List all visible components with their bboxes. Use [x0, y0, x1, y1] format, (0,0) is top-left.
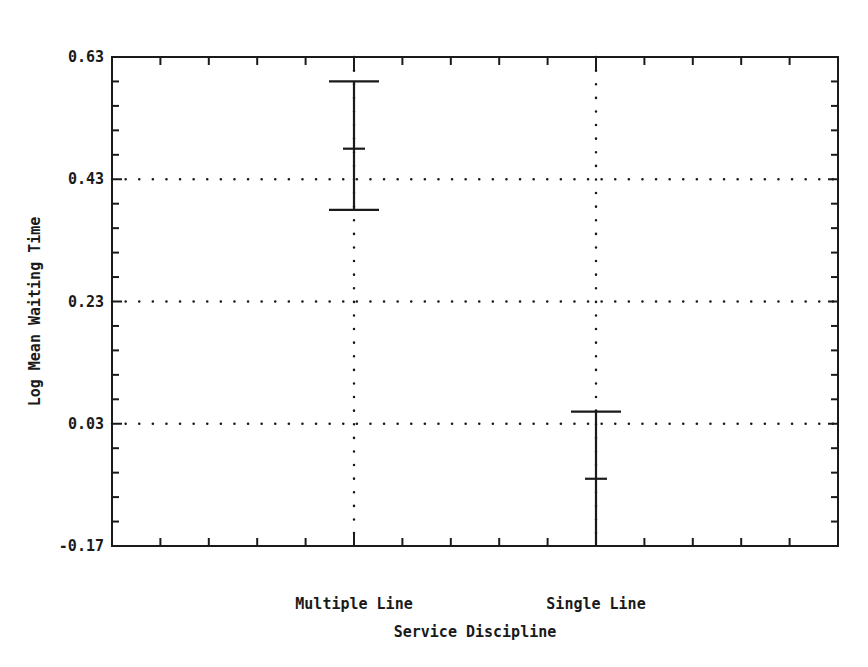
y-tick-label: 0.03 [68, 415, 104, 433]
y-tick-label: 0.63 [68, 48, 104, 66]
y-axis-title: Log Mean Waiting Time [26, 217, 44, 407]
error-bar-chart: 0.630.430.230.03-0.17Multiple LineSingle… [0, 0, 868, 667]
x-category-label: Multiple Line [295, 595, 412, 613]
y-tick-label: 0.43 [68, 170, 104, 188]
y-tick-label: -0.17 [59, 537, 104, 555]
x-axis-title: Service Discipline [394, 623, 557, 641]
x-category-label: Single Line [546, 595, 645, 613]
y-tick-label: 0.23 [68, 293, 104, 311]
